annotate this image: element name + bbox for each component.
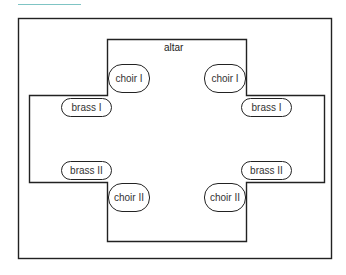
brass-2-left: brass II [61, 161, 112, 180]
choir-1-left: choir I [108, 64, 150, 93]
altar-label: altar [164, 43, 183, 53]
choir-2-right: choir II [204, 183, 246, 212]
choir-1-right: choir I [204, 64, 246, 93]
outer-wall [19, 19, 332, 259]
brass-1-right: brass I [241, 98, 292, 117]
choir-2-left: choir II [108, 183, 150, 212]
cross-shaped-nave [30, 40, 325, 242]
brass-2-right: brass II [241, 161, 292, 180]
brass-1-left: brass I [61, 98, 112, 117]
